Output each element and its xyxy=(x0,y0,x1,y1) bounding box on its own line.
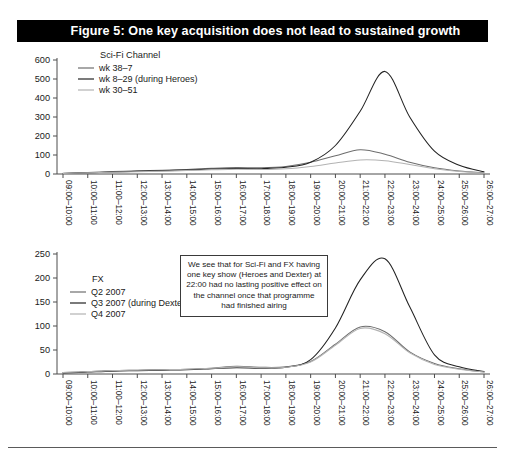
legend-label-2: wk 8–29 (during Heroes) xyxy=(98,74,198,84)
x-axis-tick-label: 09:00–10:00 xyxy=(64,180,73,226)
x-axis-tick-label: 18:00–19:00 xyxy=(287,180,296,226)
x-axis-tick-label: 24:00–25:00 xyxy=(436,180,445,226)
x-axis-tick-label: 20:00–21:00 xyxy=(337,380,346,426)
x-axis-tick-label: 13:00–14:00 xyxy=(163,180,172,226)
legend-title: FX xyxy=(92,274,104,284)
x-axis-tick-label: 19:00–20:00 xyxy=(312,380,321,426)
y-axis-tick-label: 150 xyxy=(35,297,50,307)
y-axis-tick-label: 500 xyxy=(35,74,50,84)
x-axis-tick-label: 21:00–22:00 xyxy=(361,180,370,226)
x-axis-tick-label: 26:00–27:00 xyxy=(485,180,494,226)
x-axis-tick-label: 25:00–26:00 xyxy=(460,180,469,226)
x-axis-tick-label: 15:00–16:00 xyxy=(213,380,222,426)
x-axis-tick-label: 14:00–15:00 xyxy=(188,180,197,226)
x-axis-tick-label: 23:00–24:00 xyxy=(411,180,420,226)
x-axis-tick-label: 16:00–17:00 xyxy=(238,380,247,426)
legend-label-3: Q4 2007 xyxy=(91,309,126,319)
x-axis-tick-label: 15:00–16:00 xyxy=(213,180,222,226)
x-axis-tick-label: 10:00–11:00 xyxy=(89,380,98,425)
x-axis-tick-label: 11:00–12:00 xyxy=(114,180,123,225)
y-axis-tick-label: 0 xyxy=(45,169,50,179)
legend-label-1: Q2 2007 xyxy=(91,287,126,297)
x-axis-tick-label: 21:00–22:00 xyxy=(361,380,370,426)
legend-title: Sci-Fi Channel xyxy=(100,50,160,60)
x-axis-tick-label: 16:00–17:00 xyxy=(238,180,247,226)
series-line-3 xyxy=(63,328,484,373)
chart-panel-scifi: 010020030040050060009:00–10:0010:00–11:0… xyxy=(0,46,505,236)
x-axis-tick-label: 17:00–18:00 xyxy=(262,180,271,226)
y-axis-tick-label: 200 xyxy=(35,131,50,141)
y-axis-tick-label: 200 xyxy=(35,273,50,283)
x-axis-tick-label: 20:00–21:00 xyxy=(337,180,346,226)
x-axis-tick-label: 12:00–13:00 xyxy=(139,380,148,426)
y-axis-tick-label: 250 xyxy=(35,249,50,259)
legend-label-1: wk 38–7 xyxy=(98,63,133,73)
x-axis-tick-label: 13:00–14:00 xyxy=(163,380,172,426)
x-axis-tick-label: 22:00–23:00 xyxy=(386,380,395,426)
x-axis-tick-label: 12:00–13:00 xyxy=(139,180,148,226)
x-axis-tick-label: 22:00–23:00 xyxy=(386,180,395,226)
x-axis-tick-label: 14:00–15:00 xyxy=(188,380,197,426)
x-axis-tick-label: 17:00–18:00 xyxy=(262,380,271,426)
figure-title-bar: Figure 5: One key acquisition does not l… xyxy=(17,20,488,42)
x-axis-tick-label: 19:00–20:00 xyxy=(312,180,321,226)
series-line-1 xyxy=(63,326,484,372)
chart-svg-scifi: 010020030040050060009:00–10:0010:00–11:0… xyxy=(0,46,505,236)
figure-bottom-rule xyxy=(8,447,497,448)
x-axis-tick-label: 11:00–12:00 xyxy=(114,380,123,425)
figure-title: Figure 5: One key acquisition does not l… xyxy=(17,20,488,42)
x-axis-tick-label: 25:00–26:00 xyxy=(460,380,469,426)
x-axis-tick-label: 09:00–10:00 xyxy=(64,380,73,426)
y-axis-tick-label: 600 xyxy=(35,55,50,65)
y-axis-tick-label: 100 xyxy=(35,150,50,160)
legend-label-3: wk 30–51 xyxy=(98,85,138,95)
x-axis-tick-label: 24:00–25:00 xyxy=(436,380,445,426)
insight-callout-box: We see that for Sci-Fi and FX having one… xyxy=(180,255,328,317)
x-axis-tick-label: 18:00–19:00 xyxy=(287,380,296,426)
x-axis-tick-label: 10:00–11:00 xyxy=(89,180,98,225)
x-axis-tick-label: 23:00–24:00 xyxy=(411,380,420,426)
x-axis-tick-label: 26:00–27:00 xyxy=(485,380,494,426)
insight-callout-text: We see that for Sci-Fi and FX having one… xyxy=(186,260,322,311)
y-axis-tick-label: 0 xyxy=(45,369,50,379)
legend-label-2: Q3 2007 (during Dexter) xyxy=(91,298,188,308)
y-axis-tick-label: 50 xyxy=(40,345,50,355)
y-axis-tick-label: 100 xyxy=(35,321,50,331)
y-axis-tick-label: 400 xyxy=(35,93,50,103)
y-axis-tick-label: 300 xyxy=(35,112,50,122)
figure-container: Figure 5: One key acquisition does not l… xyxy=(0,0,505,474)
